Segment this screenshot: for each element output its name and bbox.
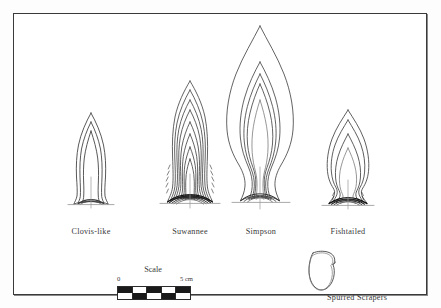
scale-cell (162, 293, 177, 299)
plate-frame: Clovis-like (13, 13, 427, 295)
point-group-clovis-like[interactable] (56, 109, 126, 209)
caption-clovis-like: Clovis-like (54, 227, 128, 236)
scale-title: Scale (113, 265, 193, 274)
scale-bar-graphic (117, 286, 191, 300)
scale-cell (147, 293, 162, 299)
figure-root: Clovis-like (0, 0, 441, 308)
scale-min-label: 0 (117, 275, 120, 282)
point-group-fishtailed[interactable] (304, 106, 392, 210)
scale-end-labels: 0 5 cm (113, 274, 193, 284)
scale-cell (176, 293, 190, 299)
caption-suwannee: Suwannee (153, 227, 227, 236)
caption-fishtailed: Fishtailed (311, 227, 385, 236)
scale-cell (133, 293, 148, 299)
scale-row-bottom (118, 293, 190, 299)
point-group-simpson[interactable] (208, 22, 312, 210)
caption-spurred-scrapers: Spurred Scrapers (327, 293, 387, 302)
scale-bar-block: Scale 0 5 cm (113, 265, 193, 284)
scale-cell (118, 293, 133, 299)
caption-simpson: Simpson (226, 227, 296, 236)
scraper-group[interactable] (300, 248, 344, 298)
scale-max-label: 5 cm (180, 275, 193, 282)
